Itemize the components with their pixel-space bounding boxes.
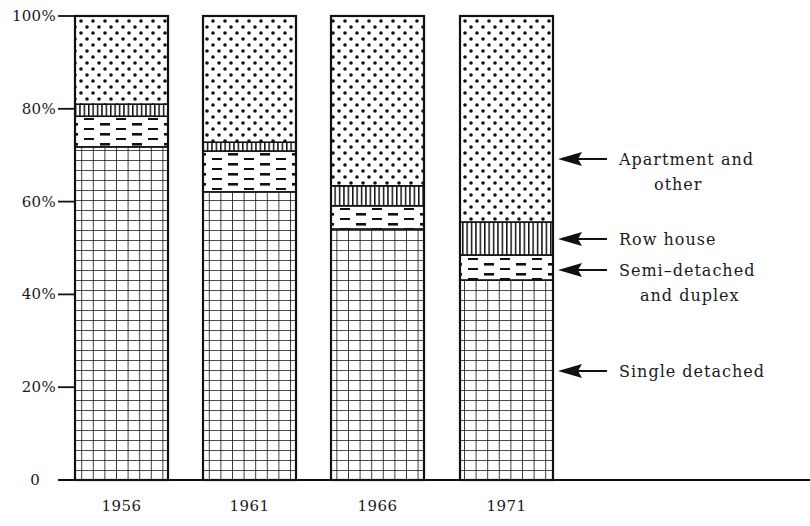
- stacked-bar-chart: 020%40%60%80%100% 1956196119661971 Apart…: [0, 0, 810, 526]
- legend-label: Semi–detached: [619, 261, 755, 280]
- y-tick-label: 60%: [22, 193, 56, 211]
- x-axis: 1956196119661971: [58, 480, 810, 515]
- bar-segment-apartment-and-other: [460, 16, 553, 222]
- x-tick-label: 1971: [486, 497, 526, 515]
- bar-segment-single-detached: [75, 147, 168, 480]
- bar-segment-apartment-and-other: [331, 16, 424, 186]
- bar-segment-apartment-and-other: [75, 16, 168, 104]
- x-tick-label: 1966: [357, 497, 397, 515]
- bar-segment-apartment-and-other: [203, 16, 296, 142]
- bar-1956: [75, 16, 168, 480]
- legend-label: Apartment and: [618, 150, 754, 169]
- bar-segment-row-house: [331, 186, 424, 206]
- legend-label: and duplex: [640, 286, 740, 305]
- bar-segment-semi-detached-and-duplex: [75, 116, 168, 147]
- legend-entry-apartment-and-other: Apartment andother: [558, 150, 754, 194]
- bar-segment-row-house: [75, 104, 168, 116]
- bar-segment-single-detached: [203, 192, 296, 480]
- bar-1961: [203, 16, 296, 480]
- bar-segment-row-house: [203, 142, 296, 151]
- bar-segment-row-house: [460, 222, 553, 255]
- bar-segment-single-detached: [331, 229, 424, 480]
- legend-label: Single detached: [619, 362, 765, 381]
- y-tick-label: 20%: [22, 378, 56, 396]
- y-tick-label: 0: [30, 471, 40, 489]
- y-axis: 020%40%60%80%100%: [12, 7, 74, 489]
- legend-label: Row house: [619, 230, 716, 249]
- bar-1966: [331, 16, 424, 480]
- bars: [75, 16, 553, 480]
- y-tick-label: 40%: [22, 285, 56, 303]
- x-tick-label: 1956: [101, 497, 141, 515]
- y-tick-label: 80%: [22, 100, 56, 118]
- legend-entry-row-house: Row house: [558, 230, 716, 249]
- legend-label: other: [654, 175, 702, 194]
- legend: Apartment andotherRow houseSemi–detached…: [558, 150, 765, 381]
- bar-segment-semi-detached-and-duplex: [331, 206, 424, 229]
- y-tick-label: 100%: [12, 7, 56, 25]
- bar-segment-semi-detached-and-duplex: [203, 151, 296, 192]
- bar-segment-single-detached: [460, 280, 553, 480]
- legend-entry-single-detached: Single detached: [558, 362, 765, 381]
- x-tick-label: 1961: [229, 497, 269, 515]
- legend-entry-semi-detached-and-duplex: Semi–detachedand duplex: [558, 261, 755, 305]
- bar-1971: [460, 16, 553, 480]
- bar-segment-semi-detached-and-duplex: [460, 255, 553, 280]
